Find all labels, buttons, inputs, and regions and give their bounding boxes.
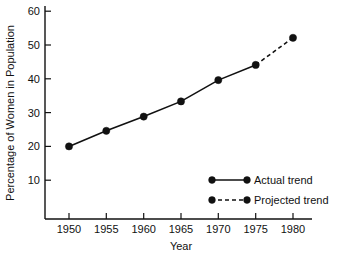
data-point-1970	[215, 77, 222, 84]
y-axis-title: Percentage of Women in Population	[4, 25, 16, 201]
line-chart: 60 50 40 30 20 10 1950 1955 1960 1965 19…	[0, 0, 340, 259]
legend-label-actual-trend: Actual trend	[254, 174, 313, 186]
x-tick-label-1975: 1975	[243, 223, 267, 235]
y-tick-label-30: 30	[28, 107, 40, 119]
chart-background	[0, 0, 340, 259]
x-tick-label-1965: 1965	[169, 223, 193, 235]
x-tick-label-1970: 1970	[206, 223, 230, 235]
y-tick-label-50: 50	[28, 39, 40, 51]
legend-marker-end-projected	[244, 197, 251, 204]
y-tick-label-60: 60	[28, 5, 40, 17]
x-tick-label-1960: 1960	[131, 223, 155, 235]
y-tick-label-20: 20	[28, 140, 40, 152]
data-point-1975	[252, 61, 259, 68]
data-point-1965	[177, 98, 184, 105]
x-tick-label-1955: 1955	[94, 223, 118, 235]
series-projected-trend-markers	[289, 34, 296, 41]
x-tick-label-1980: 1980	[281, 223, 305, 235]
chart-container: 60 50 40 30 20 10 1950 1955 1960 1965 19…	[0, 0, 340, 259]
x-axis-title: Year	[170, 240, 193, 252]
legend-label-projected-trend: Projected trend	[254, 194, 329, 206]
legend-marker-end-actual	[244, 177, 251, 184]
y-tick-label-40: 40	[28, 73, 40, 85]
data-point-1950	[65, 143, 72, 150]
y-tick-label-10: 10	[28, 174, 40, 186]
data-point-1980	[289, 34, 296, 41]
x-tick-label-1950: 1950	[57, 223, 81, 235]
legend-marker-start-projected	[209, 197, 216, 204]
data-point-1955	[103, 127, 110, 134]
data-point-1960	[140, 113, 147, 120]
legend-marker-start-actual	[209, 177, 216, 184]
